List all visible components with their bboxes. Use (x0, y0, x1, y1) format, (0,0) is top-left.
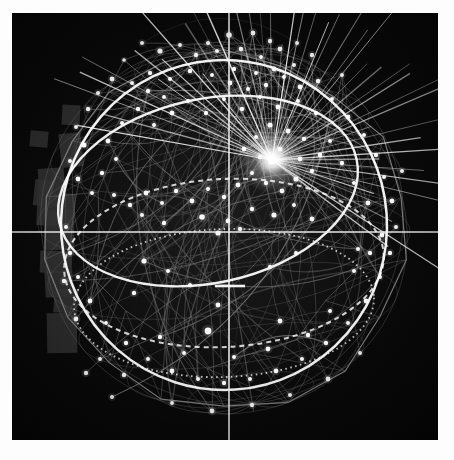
network-node[interactable] (298, 85, 303, 90)
network-node[interactable] (64, 225, 68, 229)
network-node[interactable] (295, 41, 299, 45)
network-node[interactable] (310, 169, 314, 173)
network-node[interactable] (110, 77, 115, 82)
network-node[interactable] (306, 333, 310, 337)
network-node[interactable] (188, 283, 192, 287)
network-node[interactable] (254, 71, 258, 75)
network-node[interactable] (174, 189, 178, 193)
network-node[interactable] (266, 347, 271, 352)
network-node[interactable] (380, 233, 385, 238)
network-node[interactable] (114, 157, 118, 161)
network-node[interactable] (157, 48, 162, 53)
network-node[interactable] (130, 81, 134, 85)
network-node[interactable] (340, 161, 344, 165)
network-node[interactable] (120, 121, 124, 125)
network-node[interactable] (240, 107, 245, 112)
network-node[interactable] (250, 207, 254, 211)
network-node[interactable] (146, 357, 150, 361)
network-node[interactable] (264, 83, 268, 87)
network-node[interactable] (81, 142, 86, 147)
network-node[interactable] (352, 269, 356, 273)
network-node[interactable] (76, 177, 81, 182)
network-node[interactable] (378, 275, 382, 279)
network-node[interactable] (100, 171, 104, 175)
network-node[interactable] (251, 31, 256, 36)
network-node[interactable] (268, 265, 272, 269)
network-node[interactable] (162, 221, 166, 225)
network-node[interactable] (250, 171, 254, 175)
network-node[interactable] (310, 217, 315, 222)
network-node[interactable] (267, 122, 272, 127)
network-node[interactable] (194, 53, 198, 57)
network-node[interactable] (170, 111, 175, 116)
network-node[interactable] (86, 107, 90, 111)
network-node[interactable] (162, 95, 166, 99)
network-node[interactable] (182, 351, 186, 355)
network-node[interactable] (302, 137, 306, 141)
network-node[interactable] (152, 123, 156, 127)
network-node[interactable] (160, 201, 164, 205)
network-node[interactable] (140, 41, 144, 45)
network-node[interactable] (141, 258, 146, 263)
network-node[interactable] (293, 176, 298, 181)
network-node[interactable] (144, 191, 149, 196)
network-node[interactable] (104, 321, 108, 325)
network-node[interactable] (215, 49, 219, 53)
network-node[interactable] (286, 129, 291, 134)
network-node[interactable] (146, 89, 150, 93)
network-node[interactable] (124, 341, 128, 345)
network-node[interactable] (282, 75, 286, 79)
network-node[interactable] (394, 225, 398, 229)
network-node[interactable] (62, 279, 66, 283)
network-node[interactable] (68, 251, 72, 255)
network-node[interactable] (122, 373, 126, 377)
network-node[interactable] (364, 299, 369, 304)
network-node[interactable] (110, 395, 114, 399)
network-node[interactable] (232, 67, 236, 71)
network-node[interactable] (324, 341, 328, 345)
network-node[interactable] (132, 291, 136, 295)
network-node[interactable] (222, 381, 226, 385)
network-node[interactable] (362, 133, 366, 137)
network-node[interactable] (248, 377, 252, 381)
network-node[interactable] (210, 73, 214, 77)
network-node[interactable] (346, 115, 351, 120)
network-node[interactable] (196, 377, 200, 381)
network-node[interactable] (166, 269, 170, 273)
network-node[interactable] (76, 275, 80, 279)
globe-wireframe-svg[interactable] (12, 13, 438, 440)
network-node[interactable] (382, 175, 386, 179)
network-node[interactable] (136, 107, 140, 111)
network-node[interactable] (310, 53, 314, 57)
network-node[interactable] (356, 247, 360, 251)
network-node[interactable] (84, 371, 88, 375)
network-node[interactable] (98, 357, 102, 361)
network-node[interactable] (292, 203, 296, 207)
network-node[interactable] (346, 321, 350, 325)
network-node[interactable] (122, 58, 126, 62)
network-node[interactable] (388, 251, 392, 255)
network-node[interactable] (288, 393, 292, 397)
network-node[interactable] (106, 139, 111, 144)
globe-canvas-frame[interactable] (12, 13, 438, 440)
network-node[interactable] (318, 153, 323, 158)
network-node[interactable] (259, 55, 263, 59)
network-node[interactable] (188, 69, 193, 74)
network-node[interactable] (328, 139, 332, 143)
network-node[interactable] (390, 199, 395, 204)
network-node[interactable] (88, 299, 93, 304)
network-node[interactable] (274, 369, 279, 374)
network-node[interactable] (368, 251, 372, 255)
network-node[interactable] (340, 73, 344, 77)
network-node[interactable] (236, 183, 241, 188)
network-node[interactable] (222, 97, 226, 101)
network-node[interactable] (300, 357, 304, 361)
network-node[interactable] (215, 230, 220, 235)
network-node[interactable] (246, 87, 250, 91)
network-node[interactable] (74, 317, 79, 322)
network-node[interactable] (294, 251, 298, 255)
network-node[interactable] (374, 153, 378, 157)
network-node[interactable] (239, 47, 244, 52)
network-node[interactable] (206, 187, 210, 191)
network-node[interactable] (186, 99, 190, 103)
